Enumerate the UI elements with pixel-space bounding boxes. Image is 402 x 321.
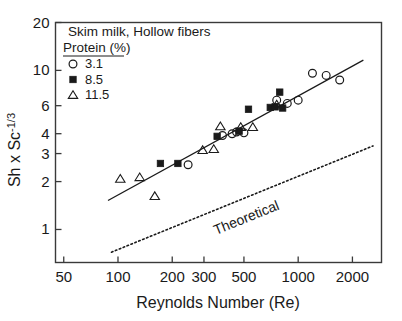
data-point [336,76,344,84]
y-tick-label-4: 4 [41,125,49,142]
y-tick-label-10: 10 [33,61,50,78]
data-point [277,89,283,95]
svg-text:Sh x Sc-1/3: Sh x Sc-1/3 [5,113,23,187]
legend-title-line1: Skim milk, Hollow fibers [68,24,211,39]
x-axis-title: Reynolds Number (Re) [136,294,300,311]
legend-marker-open-triangle [68,91,77,99]
y-axis-tick-labels: 123461020 [33,14,50,238]
data-point [248,123,257,131]
y-tick-label-6: 6 [41,97,49,114]
data-point [135,173,144,181]
data-point [245,106,251,112]
y-axis-title: Sh x Sc-1/3 [5,113,23,187]
x-tick-label-200: 200 [160,268,185,285]
theoretical-annotation: Theoretical [211,197,281,238]
series-11.5 [116,100,282,199]
data-point [175,160,181,166]
legend-title-line2: Protein (%) [63,40,131,55]
legend-item-8.5: 8.5 [70,72,103,87]
y-tick-label-3: 3 [41,145,49,162]
data-point [116,175,125,183]
y-axis-ticks [56,23,62,230]
x-tick-label-300: 300 [191,268,216,285]
x-axis-tick-labels: 5010020030050010002000 [55,268,369,285]
y-tick-label-20: 20 [33,14,50,31]
legend-item-3.1: 3.1 [69,56,103,71]
data-point [216,122,225,130]
x-tick-label-1000: 1000 [281,268,314,285]
legend-item-11.5: 11.5 [68,87,109,102]
x-tick-label-50: 50 [55,268,72,285]
theoretical-label: Theoretical [211,197,281,238]
data-point [157,160,163,166]
data-point [150,192,159,200]
y-axis-title-exponent: -1/3 [5,113,17,132]
series-8.5 [157,89,286,167]
legend-marker-open-circle [69,60,77,68]
y-axis-title-base: Sh x Sc [6,132,23,187]
legend-label-11.5: 11.5 [85,87,109,102]
x-tick-label-500: 500 [231,268,256,285]
legend-label-3.1: 3.1 [85,56,103,71]
chart-canvas: 5010020030050010002000 123461020 Theoret… [0,0,402,321]
y-tick-label-1: 1 [41,220,49,237]
x-tick-label-2000: 2000 [336,268,369,285]
x-axis-ticks [64,257,353,263]
data-point [309,69,317,77]
data-point [184,161,192,169]
data-point [322,72,330,80]
data-point [294,96,302,104]
legend-label-8.5: 8.5 [85,72,103,87]
data-point [209,145,218,153]
legend-marker-filled-square [70,76,76,82]
y-tick-label-2: 2 [41,173,49,190]
legend: Skim milk, Hollow fibers Protein (%) 3.1… [63,24,211,102]
x-tick-label-100: 100 [105,268,130,285]
data-point [214,133,220,139]
legend-items: 3.18.511.5 [68,56,109,102]
chart-figure: 5010020030050010002000 123461020 Theoret… [0,0,402,321]
